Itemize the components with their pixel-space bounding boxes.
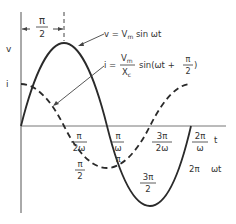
- i-eq-num: Vm: [121, 53, 133, 64]
- t-axis-label: t: [214, 135, 218, 145]
- v-equation: v = Vm sin ωt: [104, 29, 162, 40]
- v-leader-line: [80, 34, 104, 45]
- arrowhead-right-icon: [58, 27, 63, 31]
- i-eq-den: Xc: [122, 67, 131, 78]
- tick-a3-den: 2: [145, 184, 150, 194]
- capacitor-waveform-diagram: π 2 v i v = Vm sin ωt i = Vm Xc sin(ωt +…: [0, 0, 236, 224]
- i-eq-rhs: sin(ωt +: [139, 60, 175, 70]
- i-eq-frac-den: 2: [185, 67, 190, 76]
- i-leader-line: [55, 66, 104, 105]
- tick-a4: 2π: [189, 164, 200, 174]
- tick-t4-num: 2π: [195, 131, 206, 141]
- tick-t1-den: 2ω: [73, 143, 86, 153]
- arrowhead-left-icon: [22, 27, 27, 31]
- tick-t1-num: π: [76, 131, 81, 141]
- i-equation-lhs: i =: [104, 60, 116, 70]
- tick-t4-den: ω: [196, 143, 203, 153]
- phase-den: 2: [39, 29, 45, 39]
- i-axis-label: i: [6, 79, 9, 89]
- tick-t2-num: π: [115, 131, 120, 141]
- v-axis-label: v: [6, 44, 12, 54]
- tick-t3-num: 3π: [157, 131, 168, 141]
- tick-a3-num: 3π: [143, 172, 154, 182]
- tick-t2-den: ω: [114, 143, 121, 153]
- tick-a1-den: 2: [77, 171, 82, 181]
- i-eq-close: ): [194, 60, 197, 70]
- v-leader-arrow-icon: [78, 42, 84, 46]
- phase-num: π: [39, 15, 45, 26]
- tick-t3-den: 2ω: [156, 143, 169, 153]
- i-leader-arrow-icon: [53, 101, 59, 106]
- wt-axis-label: ωt: [211, 164, 222, 174]
- tick-a1-num: π: [77, 159, 82, 169]
- i-eq-frac-num: π: [186, 55, 191, 64]
- tick-a2: π: [115, 154, 120, 164]
